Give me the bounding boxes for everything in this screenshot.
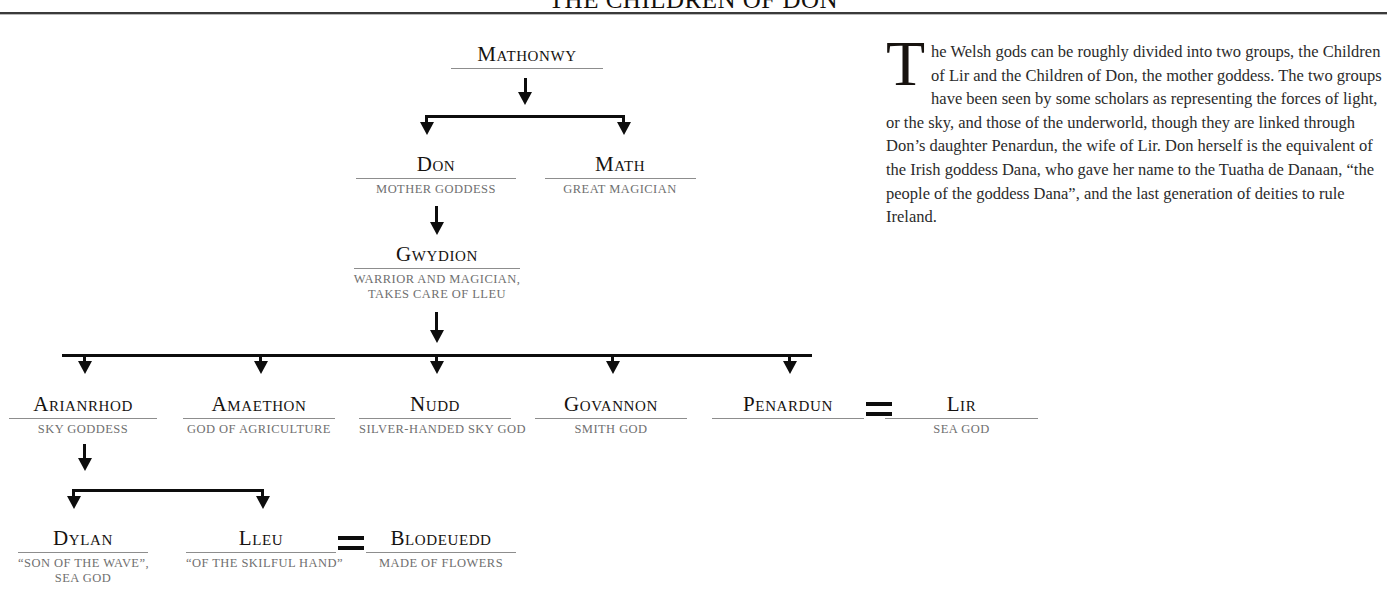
arrow-down-arianrhod [78, 361, 92, 374]
node-name: Lleu [186, 526, 336, 550]
node-rule [535, 418, 687, 419]
node-description-line2: TAKES CARE OF LLEU [352, 287, 522, 302]
node-name: Amaethon [183, 392, 335, 416]
node-amaethon: Amaethon GOD OF AGRICULTURE [183, 392, 335, 437]
node-name: Lir [885, 392, 1038, 416]
node-rule [356, 178, 516, 179]
node-gwydion: Gwydion WARRIOR AND MAGICIAN, TAKES CARE… [352, 242, 522, 302]
node-description: GREAT MAGICIAN [540, 182, 700, 197]
arrow-down-math [617, 122, 631, 135]
node-name: Dylan [18, 526, 148, 550]
node-description: GOD OF AGRICULTURE [183, 422, 335, 437]
node-rule [354, 268, 520, 269]
node-description: SMITH GOD [535, 422, 687, 437]
article-body: The Welsh gods can be roughly divided in… [886, 40, 1382, 229]
node-arianrhod: Arianrhod SKY GODDESS [8, 392, 158, 437]
node-description-line1: WARRIOR AND MAGICIAN, [352, 272, 522, 287]
arrow-down-amaethon [254, 361, 268, 374]
arrow-down-penardun [783, 361, 797, 374]
node-name: Penardun [712, 392, 864, 416]
node-blodeuedd: Blodeuedd MADE OF FLOWERS [366, 526, 516, 571]
sibling-bus-mathonwy-children [425, 115, 625, 118]
node-description: MADE OF FLOWERS [366, 556, 516, 571]
node-don: Don MOTHER GODDESS [352, 152, 520, 197]
node-rule [451, 68, 603, 69]
node-name: Govannon [535, 392, 687, 416]
node-rule [545, 178, 696, 179]
arrow-down-lleu [256, 496, 270, 509]
node-description: SILVER-HANDED SKY GOD [359, 422, 511, 437]
node-name: Blodeuedd [366, 526, 516, 550]
node-lir: Lir SEA GOD [885, 392, 1038, 437]
node-rule [712, 418, 864, 419]
node-dylan: Dylan “SON OF THE WAVE”, SEA GOD [18, 526, 148, 586]
node-description-line2: SEA GOD [18, 571, 148, 586]
drop-cap: T [886, 36, 931, 90]
arrow-down-don [420, 122, 434, 135]
arrow-down-govannon [606, 361, 620, 374]
node-name: Mathonwy [427, 42, 627, 66]
node-penardun: Penardun [712, 392, 864, 419]
node-rule [366, 552, 516, 553]
arrow-down-gwydion [430, 222, 444, 235]
arrow-down-mathonwy [518, 92, 532, 105]
node-nudd: Nudd SILVER-HANDED SKY GOD [359, 392, 511, 437]
node-name: Don [352, 152, 520, 176]
article-text: he Welsh gods can be roughly divided int… [886, 42, 1382, 226]
node-rule [359, 418, 511, 419]
node-math: Math GREAT MAGICIAN [540, 152, 700, 197]
node-lleu: Lleu “OF THE SKILFUL HAND” [186, 526, 336, 571]
node-description: SEA GOD [885, 422, 1038, 437]
arrow-down-nudd [430, 361, 444, 374]
sibling-bus-arianrhod-children [72, 489, 264, 492]
arrow-down-arianrhod-to-bus [78, 458, 92, 471]
title-divider [0, 12, 1387, 14]
node-govannon: Govannon SMITH GOD [535, 392, 687, 437]
node-name: Gwydion [352, 242, 522, 266]
genealogy-page: THE CHILDREN OF DON Mathonwy Don MOTHER … [0, 0, 1387, 592]
node-name: Math [540, 152, 700, 176]
node-description: MOTHER GODDESS [352, 182, 520, 197]
connector-stem-gwydion [435, 312, 438, 332]
arrow-down-gwydion-to-bus [430, 330, 444, 343]
node-description-line1: “SON OF THE WAVE”, [18, 556, 148, 571]
node-rule [186, 552, 336, 553]
node-mathonwy: Mathonwy [427, 42, 627, 69]
node-rule [18, 552, 148, 553]
node-rule [9, 418, 157, 419]
node-rule [183, 418, 335, 419]
node-description: SKY GODDESS [8, 422, 158, 437]
node-name: Nudd [359, 392, 511, 416]
node-rule [885, 418, 1038, 419]
node-name: Arianrhod [8, 392, 158, 416]
marriage-symbol-lleu-blodeuedd [338, 536, 364, 550]
arrow-down-dylan [67, 496, 81, 509]
node-description: “OF THE SKILFUL HAND” [186, 556, 336, 571]
